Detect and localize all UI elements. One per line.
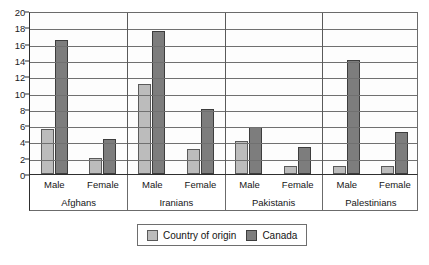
subgroup-label-female: Female — [79, 175, 128, 193]
y-axis-tick-label: 16 — [15, 39, 25, 50]
bar — [381, 166, 394, 174]
legend-swatch-canada — [246, 230, 257, 241]
bar — [249, 127, 262, 174]
y-axis-tick-label: 10 — [15, 88, 25, 99]
group-label: Iranians — [128, 193, 224, 211]
subgroup-label-female: Female — [274, 175, 322, 193]
category-group-iranians: MaleFemaleIranians — [127, 175, 224, 210]
legend-label: Country of origin — [163, 230, 236, 241]
subgroup-label-male: Male — [226, 175, 274, 193]
gridline — [30, 143, 417, 144]
bar — [333, 166, 346, 174]
group-separator — [225, 13, 226, 174]
legend-entry: Country of origin — [147, 230, 236, 241]
gridline — [30, 62, 417, 63]
bar — [284, 166, 297, 174]
gridline — [30, 46, 417, 47]
plot-area — [29, 12, 418, 175]
bar — [395, 132, 408, 174]
subgroup-row: MaleFemale — [323, 175, 419, 193]
legend-entry: Canada — [246, 230, 297, 241]
bar — [201, 109, 214, 174]
grouped-bar-chart: 20181614121086420 MaleFemaleAfghansMaleF… — [0, 0, 429, 265]
chart-legend: Country of originCanada — [137, 224, 307, 246]
group-separator — [322, 13, 323, 174]
group-label: Afghans — [30, 193, 127, 211]
category-group-afghans: MaleFemaleAfghans — [30, 175, 127, 210]
y-axis: 20181614121086420 — [0, 12, 25, 175]
subgroup-label-male: Male — [128, 175, 176, 193]
subgroup-label-male: Male — [323, 175, 371, 193]
bar — [347, 60, 360, 174]
subgroup-row: MaleFemale — [226, 175, 322, 193]
group-separator — [127, 13, 128, 174]
gridline — [30, 78, 417, 79]
category-group-pakistanis: MaleFemalePakistanis — [225, 175, 322, 210]
bar — [55, 40, 68, 174]
legend-swatch-origin — [147, 230, 158, 241]
legend-label: Canada — [262, 230, 297, 241]
gridline — [30, 127, 417, 128]
bar — [187, 149, 200, 174]
y-axis-tick-label: 18 — [15, 23, 25, 34]
subgroup-label-male: Male — [30, 175, 79, 193]
group-label: Pakistanis — [226, 193, 322, 211]
y-axis-tick-label: 20 — [15, 7, 25, 18]
bar — [41, 129, 54, 174]
subgroup-label-female: Female — [371, 175, 419, 193]
bars-layer — [30, 13, 417, 174]
category-group-palestinians: MaleFemalePalestinians — [322, 175, 419, 210]
subgroup-row: MaleFemale — [30, 175, 127, 193]
bar — [235, 141, 248, 174]
subgroup-label-female: Female — [176, 175, 224, 193]
gridline — [30, 29, 417, 30]
y-axis-tick-label: 14 — [15, 55, 25, 66]
bar — [152, 31, 165, 174]
gridline — [30, 160, 417, 161]
subgroup-row: MaleFemale — [128, 175, 224, 193]
category-axis-table: MaleFemaleAfghansMaleFemaleIraniansMaleF… — [29, 175, 418, 211]
group-label: Palestinians — [323, 193, 419, 211]
gridline — [30, 111, 417, 112]
y-axis-tick-label: 12 — [15, 72, 25, 83]
gridline — [30, 95, 417, 96]
